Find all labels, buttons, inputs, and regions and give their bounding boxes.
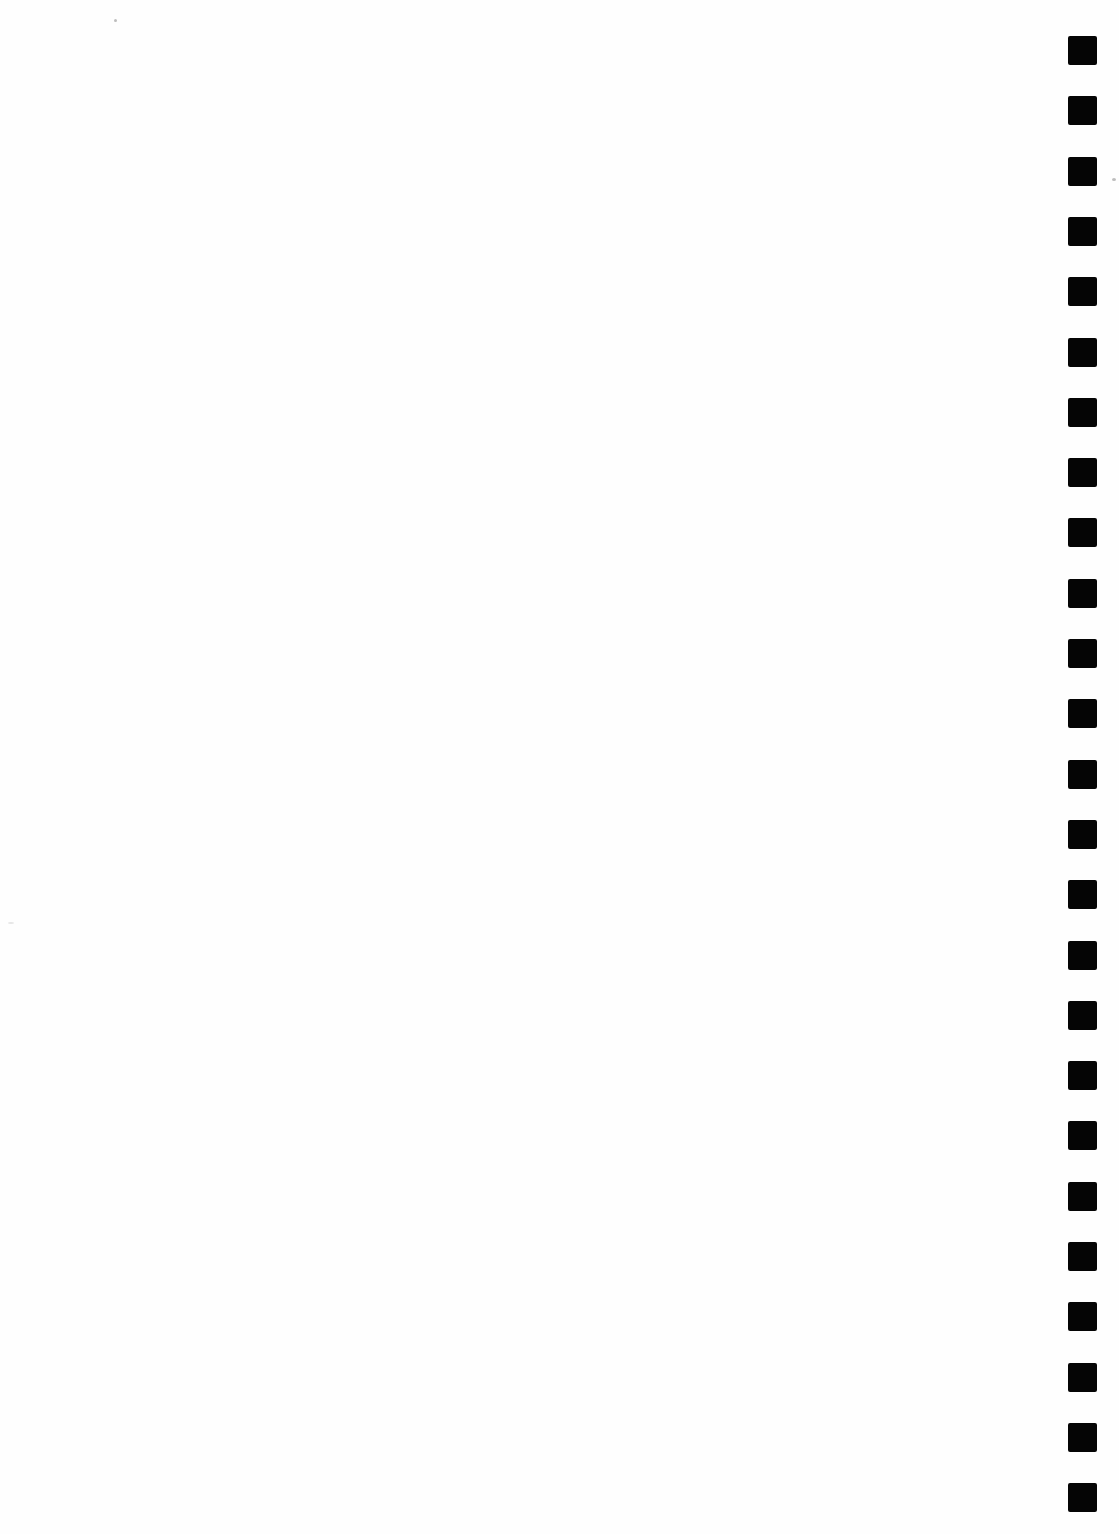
binding-hole — [1068, 1423, 1097, 1452]
binding-hole — [1068, 1242, 1097, 1271]
binding-hole — [1068, 639, 1097, 668]
binding-hole — [1068, 338, 1097, 367]
binding-hole — [1068, 699, 1097, 728]
binding-hole — [1068, 36, 1097, 65]
binding-hole — [1068, 96, 1097, 125]
binding-hole — [1068, 398, 1097, 427]
binding-hole — [1068, 820, 1097, 849]
scan-speck — [1112, 178, 1116, 181]
binding-hole — [1068, 518, 1097, 547]
scan-speck — [114, 19, 117, 22]
binding-hole — [1068, 1121, 1097, 1150]
binding-hole — [1068, 1363, 1097, 1392]
binding-hole — [1068, 217, 1097, 246]
binding-hole — [1068, 1001, 1097, 1030]
blank-document-page — [0, 0, 1119, 1534]
binding-hole — [1068, 458, 1097, 487]
binding-hole — [1068, 1061, 1097, 1090]
binding-hole — [1068, 1182, 1097, 1211]
binding-hole — [1068, 880, 1097, 909]
binding-hole — [1068, 1302, 1097, 1331]
binding-hole — [1068, 157, 1097, 186]
scan-speck — [8, 922, 14, 924]
binding-hole — [1068, 760, 1097, 789]
binding-hole — [1068, 277, 1097, 306]
binding-hole — [1068, 579, 1097, 608]
binding-hole — [1068, 941, 1097, 970]
binding-hole — [1068, 1483, 1097, 1512]
binding-punch-holes — [1068, 0, 1100, 1534]
